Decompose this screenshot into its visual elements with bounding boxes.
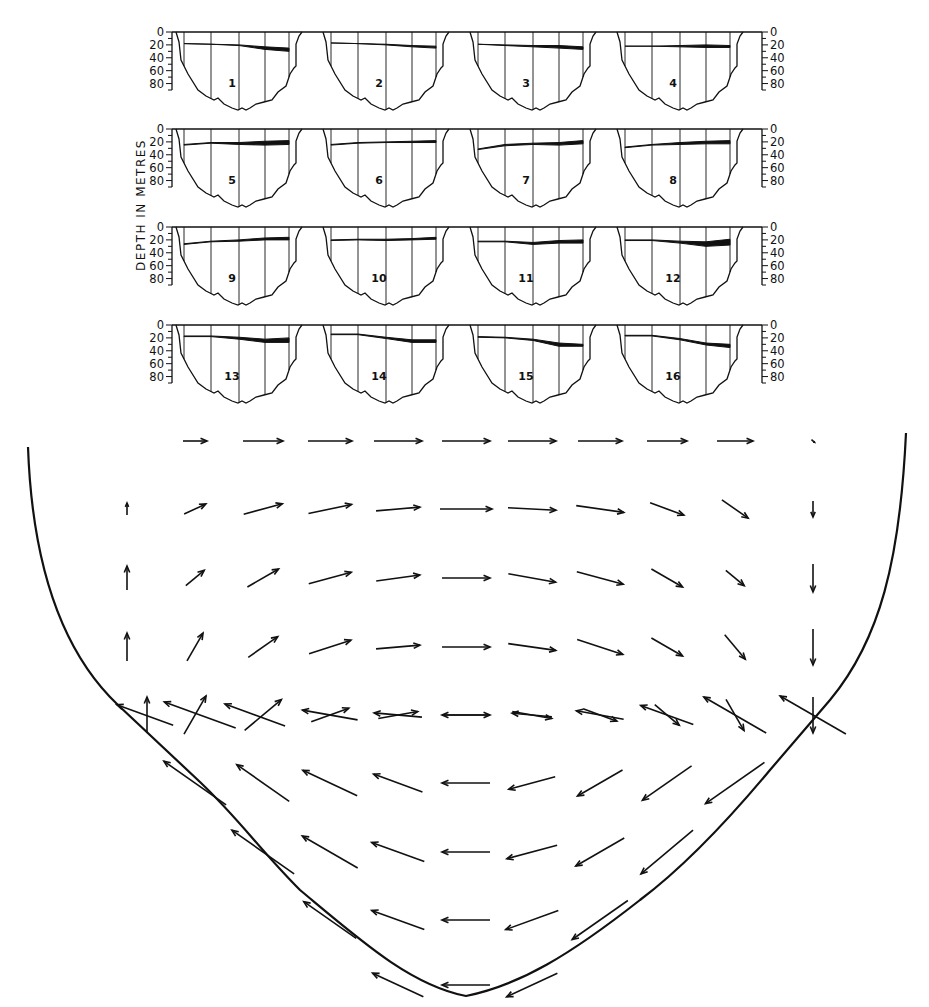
current-vector-arrow — [184, 696, 206, 734]
depth-tick-label-left: 80 — [149, 370, 164, 384]
section-panel-3: 3 — [470, 32, 596, 110]
current-vector-arrow — [187, 633, 203, 661]
section-panel-1: 1 — [176, 32, 302, 110]
current-vector-arrow — [811, 501, 815, 517]
current-vector-arrow — [722, 500, 748, 518]
current-vector-arrow — [577, 572, 623, 585]
current-vector-arrow — [186, 570, 204, 585]
current-vector-arrow — [124, 633, 129, 661]
thermocline-band — [478, 337, 583, 347]
current-vector-arrow — [641, 830, 693, 874]
current-vector-arrow — [183, 438, 207, 443]
panel-number: 11 — [518, 272, 533, 285]
thermocline-band — [625, 45, 730, 48]
current-vector-arrow — [237, 765, 289, 802]
current-vector-arrow — [583, 709, 617, 722]
current-vector-arrow — [717, 438, 753, 443]
current-vector-arrow — [442, 780, 490, 785]
thermocline-band — [478, 44, 583, 49]
current-vector-arrow — [810, 564, 815, 592]
section-panel-6: 6 — [323, 129, 449, 207]
panel-number: 14 — [371, 370, 387, 383]
thermocline-band — [184, 141, 289, 146]
thermocline-band — [478, 141, 583, 150]
current-vector-arrow — [577, 770, 622, 796]
current-vector-arrow — [578, 438, 622, 443]
current-vector-arrow — [509, 777, 555, 790]
panel-number: 13 — [224, 370, 239, 383]
thermocline-band — [331, 237, 436, 240]
current-vector-arrow — [440, 506, 492, 511]
current-vector-arrow — [650, 503, 684, 516]
current-vector-arrow — [164, 761, 226, 805]
current-vector-arrow — [506, 910, 559, 930]
current-vector-arrow — [810, 629, 815, 665]
depth-tick-label-right: 80 — [770, 174, 785, 188]
panel-number: 16 — [665, 370, 681, 383]
thermocline-band — [331, 43, 436, 48]
current-vector-arrow — [508, 438, 556, 443]
current-vector-arrow — [372, 842, 425, 862]
y-axis-title: DEPTH IN METRES — [134, 139, 148, 271]
current-vector-arrow — [442, 644, 490, 649]
current-vector-arrow — [376, 573, 420, 581]
section-panel-9: 9 — [176, 227, 302, 305]
current-vector-arrow — [304, 902, 356, 939]
current-vector-arrow — [247, 569, 278, 587]
depth-tick-label-left: 80 — [149, 174, 164, 188]
current-vector-arrow — [647, 438, 687, 443]
panel-number: 4 — [669, 77, 677, 90]
current-vector-arrow — [308, 438, 352, 443]
current-vector-arrow — [655, 705, 680, 726]
thermocline-band — [331, 141, 436, 146]
panel-number: 7 — [522, 174, 530, 187]
current-vector-arrow — [508, 644, 556, 652]
current-vector-arrow — [651, 569, 682, 587]
section-panel-7: 7 — [470, 129, 596, 207]
panel-number: 12 — [665, 272, 680, 285]
current-vector-arrow — [725, 635, 746, 660]
current-vector-arrow — [372, 910, 425, 930]
section-panel-11: 11 — [470, 227, 596, 305]
current-vector-arrow — [374, 774, 423, 792]
current-vector-arrow — [243, 438, 283, 443]
thermocline-band — [184, 336, 289, 342]
panel-number: 9 — [228, 272, 236, 285]
current-vector-field — [28, 433, 906, 997]
panel-number: 15 — [518, 370, 533, 383]
current-vector-arrow — [726, 699, 744, 730]
section-panel-4: 4 — [617, 32, 743, 110]
current-vector-arrow — [706, 762, 765, 803]
current-vector-arrow — [309, 640, 351, 654]
current-vector-arrow — [642, 766, 691, 800]
current-vector-arrow — [651, 638, 682, 656]
current-vector-arrow — [245, 700, 282, 731]
current-vector-arrow — [302, 709, 357, 720]
section-panel-13: 13 — [176, 325, 302, 403]
section-panel-12: 12 — [617, 227, 743, 305]
section-panel-5: 5 — [176, 129, 302, 207]
current-vector-arrow — [442, 849, 490, 854]
current-vector-arrow — [508, 574, 555, 584]
current-vector-arrow — [507, 845, 557, 859]
thermocline-band — [625, 335, 730, 347]
depth-tick-label-right: 80 — [770, 77, 785, 91]
section-panel-14: 14 — [323, 325, 449, 403]
depth-tick-label-right: 80 — [770, 370, 785, 384]
thermocline-band — [625, 239, 730, 246]
current-vector-arrow — [810, 697, 815, 733]
current-vector-arrow — [125, 503, 128, 515]
section-panel-8: 8 — [617, 129, 743, 207]
panel-number: 10 — [371, 272, 387, 285]
current-vector-arrow — [577, 640, 623, 655]
section-panel-16: 16 — [617, 325, 743, 403]
current-vector-arrow — [117, 704, 173, 725]
current-vector-arrow — [376, 643, 420, 649]
depth-tick-label-left: 80 — [149, 272, 164, 286]
thermocline-band — [478, 240, 583, 245]
depth-tick-label-right: 80 — [770, 272, 785, 286]
current-vector-arrow — [811, 440, 814, 443]
current-vector-arrow — [248, 637, 277, 658]
current-vector-arrow — [184, 504, 206, 514]
current-vector-arrow — [376, 505, 420, 511]
